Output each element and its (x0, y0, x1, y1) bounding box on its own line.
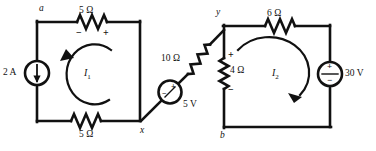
circuit-schematic-svg (0, 0, 376, 151)
resistor-5ohm-top-minus: − (76, 28, 82, 38)
voltage-source-30v-label: 30 V (345, 69, 364, 79)
circuit-diagram: a x y b 5 Ω − + 5 Ω 2 A 10 Ω 5 V + − 6 Ω… (0, 0, 376, 151)
wire-diagonal-upper (210, 30, 224, 45)
node-label-y: y (216, 8, 220, 18)
node-label-x: x (140, 126, 144, 136)
voltage-source-5v-minus: − (162, 90, 167, 98)
voltage-source-5v-label: 5 V (183, 100, 197, 110)
resistor-5ohm-bottom-symbol (71, 114, 101, 128)
node-label-b: b (220, 131, 225, 141)
resistor-10ohm-label: 10 Ω (161, 54, 180, 64)
node-label-a: a (39, 4, 44, 14)
resistor-4ohm-plus: + (228, 50, 234, 60)
mesh-current-i1-subscript: 1 (87, 73, 91, 81)
resistor-6ohm-label: 6 Ω (267, 9, 281, 19)
mesh-current-i1-label: I1 (84, 68, 91, 81)
resistor-10ohm-symbol (188, 45, 210, 75)
resistor-5ohm-top-plus: + (103, 28, 109, 38)
mesh-current-i2-subscript: 2 (275, 73, 279, 81)
mesh-current-i2-label: I2 (272, 68, 279, 81)
voltage-source-30v-minus: − (327, 76, 332, 85)
current-source-2a-label: 2 A (3, 68, 16, 78)
wire-diagonal-mid (179, 74, 188, 83)
resistor-4ohm-label: 4 Ω (230, 66, 244, 76)
wire-diagonal-lower (141, 101, 161, 121)
resistor-6ohm-symbol (265, 19, 295, 33)
resistor-5ohm-bottom-label: 5 Ω (79, 130, 93, 140)
resistor-4ohm-minus: − (228, 85, 234, 95)
voltage-source-30v-plus: + (327, 62, 332, 71)
voltage-source-5v-plus: + (171, 83, 176, 91)
resistor-5ohm-top-label: 5 Ω (79, 6, 93, 16)
